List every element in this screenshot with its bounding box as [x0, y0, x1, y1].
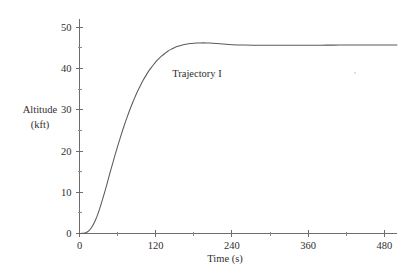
- series-annotation-label: Trajectory I: [172, 68, 222, 79]
- y-axis-title-line2: (kft): [31, 119, 50, 131]
- x-tick-label: 120: [148, 240, 164, 251]
- x-tick-label: 240: [224, 240, 240, 251]
- y-tick-label: 40: [61, 63, 72, 74]
- x-axis-title: Time (s): [207, 253, 243, 265]
- y-tick-label: 20: [61, 146, 72, 157]
- x-tick-label: 0: [77, 240, 82, 251]
- chart-annotations: Trajectory I: [172, 68, 222, 79]
- chart-figure: 01020304050 0120240360480 Trajectory I T…: [0, 0, 410, 273]
- x-tick-label: 480: [376, 240, 392, 251]
- chart-background: [0, 0, 410, 273]
- altitude-trajectory-chart: 01020304050 0120240360480 Trajectory I T…: [0, 0, 410, 273]
- y-tick-label: 0: [66, 228, 71, 239]
- y-tick-label: 50: [61, 22, 72, 33]
- y-tick-label: 30: [61, 104, 72, 115]
- y-tick-label: 10: [61, 187, 72, 198]
- y-axis-title-line1: Altitude: [23, 104, 58, 115]
- scan-speck: [354, 72, 356, 74]
- x-tick-label: 360: [300, 240, 316, 251]
